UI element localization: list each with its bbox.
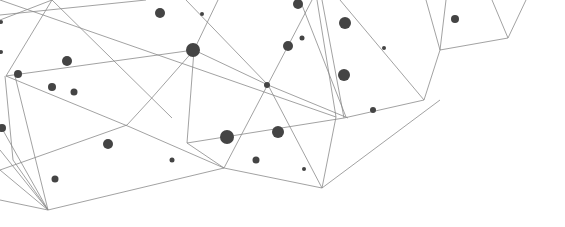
network-edge	[440, 38, 508, 50]
network-lines-and-nodes	[0, 0, 565, 227]
network-edge	[322, 100, 440, 188]
network-node	[103, 139, 113, 149]
network-edge	[127, 100, 150, 125]
network-node	[186, 43, 200, 57]
network-node	[272, 126, 284, 138]
network-edge	[440, 0, 446, 50]
network-node	[52, 176, 59, 183]
network-edge	[150, 50, 194, 100]
network-node	[338, 69, 350, 81]
network-node	[0, 20, 3, 24]
network-node	[0, 50, 3, 54]
network-edge	[492, 0, 508, 38]
network-node	[253, 157, 260, 164]
network-edge	[187, 118, 344, 143]
network-node	[264, 82, 270, 88]
network-edge	[344, 100, 424, 118]
network-node	[300, 36, 305, 41]
network-edge	[6, 50, 194, 76]
network-node	[451, 15, 459, 23]
network-node	[302, 167, 306, 171]
network-edge	[6, 76, 130, 127]
network-edge	[224, 168, 322, 188]
network-edge	[340, 0, 424, 100]
network-node	[200, 12, 204, 16]
network-node	[370, 107, 376, 113]
network-edge	[6, 0, 52, 76]
network-node	[170, 158, 175, 163]
network-edge	[186, 0, 268, 85]
network-node	[14, 70, 22, 78]
network-node	[155, 8, 165, 18]
network-node	[293, 0, 303, 9]
network-edge	[48, 168, 224, 210]
network-edge	[187, 50, 194, 143]
network-node	[382, 46, 386, 50]
network-node	[62, 56, 72, 66]
network-graphic	[0, 0, 565, 227]
network-edge	[322, 117, 336, 188]
network-edge	[224, 46, 288, 168]
network-node	[71, 89, 78, 96]
network-edge	[426, 0, 440, 50]
network-edge	[194, 50, 268, 85]
network-node	[220, 130, 234, 144]
network-edge	[194, 0, 218, 50]
network-edge	[508, 0, 526, 38]
network-edge	[0, 0, 336, 117]
network-node	[339, 17, 351, 29]
network-node	[0, 124, 6, 132]
network-edge	[187, 143, 224, 168]
network-edge	[424, 50, 440, 100]
network-edge	[130, 127, 224, 168]
network-edge	[268, 85, 348, 118]
network-node	[283, 41, 293, 51]
network-node	[48, 83, 56, 91]
network-edge	[300, 0, 346, 117]
network-edge	[5, 76, 13, 160]
